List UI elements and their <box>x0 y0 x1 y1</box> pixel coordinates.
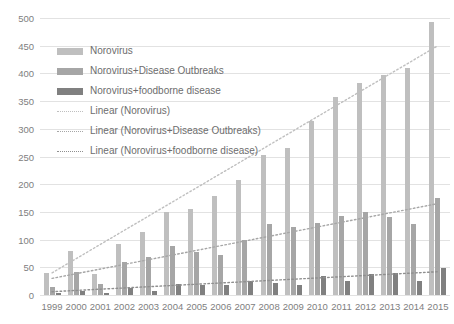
bar <box>248 281 253 295</box>
bar <box>309 121 314 296</box>
legend-label: Norovirus <box>90 45 133 58</box>
y-axis-tick-label: 50 <box>6 262 34 273</box>
x-axis-tick-label: 2010 <box>307 301 328 312</box>
bar <box>315 223 320 295</box>
legend-dotted-line <box>57 148 83 155</box>
bar <box>411 224 416 295</box>
bar <box>297 285 302 295</box>
bar <box>393 273 398 295</box>
x-axis-tick-label: 2013 <box>379 301 400 312</box>
x-axis-tick-label: 2004 <box>162 301 183 312</box>
bar <box>363 212 368 295</box>
bar-group <box>426 18 450 295</box>
bar <box>188 209 193 295</box>
bar <box>176 284 181 295</box>
bar <box>146 257 151 295</box>
bar <box>291 227 296 295</box>
bar <box>357 83 362 295</box>
x-axis-tick-label: 2012 <box>355 301 376 312</box>
legend-item[interactable]: Norovirus+Disease Outbreaks <box>57 65 267 78</box>
y-axis-tick-label: 300 <box>6 123 34 134</box>
bar <box>116 244 121 295</box>
legend-item[interactable]: Norovirus+foodborne disease <box>57 85 267 98</box>
bar <box>261 155 266 295</box>
legend-item[interactable]: Linear (Norovirus+foodborne disease) <box>57 145 267 158</box>
x-axis-tick-label: 2014 <box>403 301 424 312</box>
bar <box>267 224 272 295</box>
y-axis-tick-label: 400 <box>6 68 34 79</box>
x-axis-tick-label: 2005 <box>186 301 207 312</box>
bar <box>242 240 247 295</box>
legend-label: Linear (Norovirus) <box>90 105 170 118</box>
bar <box>164 212 169 295</box>
chart-canvas: 050100150200250300350400450500 199920002… <box>0 0 454 324</box>
bar <box>285 148 290 295</box>
x-axis-tick-label: 1999 <box>41 301 62 312</box>
bar <box>56 293 61 295</box>
x-axis-tick-label: 2008 <box>259 301 280 312</box>
bar <box>44 273 49 295</box>
legend-swatch <box>57 48 83 55</box>
bar <box>405 68 410 295</box>
legend-swatch <box>57 88 83 95</box>
y-axis: 050100150200250300350400450500 <box>0 0 34 324</box>
y-axis-tick-label: 150 <box>6 206 34 217</box>
bar <box>50 287 55 295</box>
x-axis-tick-label: 2000 <box>66 301 87 312</box>
chart-legend: NorovirusNorovirus+Disease OutbreaksNoro… <box>57 45 267 165</box>
bar-group <box>354 18 378 295</box>
x-axis-tick-label: 2015 <box>427 301 448 312</box>
y-axis-tick-label: 350 <box>6 96 34 107</box>
y-axis-tick-label: 500 <box>6 13 34 24</box>
bar <box>170 246 175 295</box>
x-axis-tick-label: 2009 <box>283 301 304 312</box>
bar <box>218 255 223 295</box>
y-axis-tick-label: 450 <box>6 40 34 51</box>
x-axis-tick-label: 2011 <box>331 301 351 312</box>
legend-dotted-line <box>57 108 83 115</box>
bar <box>74 272 79 295</box>
x-axis-tick-label: 2002 <box>114 301 135 312</box>
y-axis-tick-label: 200 <box>6 179 34 190</box>
bar-group <box>281 18 305 295</box>
bar <box>68 251 73 295</box>
legend-label: Linear (Norovirus+foodborne disease) <box>90 145 258 158</box>
bar <box>128 288 133 295</box>
bar-group <box>329 18 353 295</box>
bar <box>387 217 392 295</box>
legend-label: Norovirus+Disease Outbreaks <box>90 65 224 78</box>
bar <box>429 22 434 295</box>
bar <box>152 291 157 295</box>
bar <box>200 285 205 295</box>
bar-group <box>378 18 402 295</box>
y-axis-tick-label: 100 <box>6 234 34 245</box>
x-axis-tick-label: 2007 <box>234 301 255 312</box>
x-axis-tick-label: 2001 <box>90 301 111 312</box>
bar <box>224 285 229 295</box>
legend-item[interactable]: Linear (Norovirus+Disease Outbreaks) <box>57 125 267 138</box>
bar <box>104 293 109 295</box>
bar-group <box>402 18 426 295</box>
bar-group <box>305 18 329 295</box>
bar <box>98 284 103 295</box>
legend-item[interactable]: Linear (Norovirus) <box>57 105 267 118</box>
bar <box>369 274 374 295</box>
bar <box>441 268 446 295</box>
bar <box>417 281 422 295</box>
bar <box>273 283 278 295</box>
y-axis-tick-label: 250 <box>6 151 34 162</box>
bar <box>339 216 344 295</box>
bar <box>333 97 338 295</box>
bar <box>122 262 127 295</box>
bar <box>381 75 386 295</box>
legend-label: Norovirus+foodborne disease <box>90 85 221 98</box>
bar <box>435 198 440 295</box>
bar <box>236 180 241 295</box>
bar <box>212 196 217 295</box>
bar <box>92 274 97 295</box>
bar <box>345 281 350 295</box>
bar <box>321 276 326 295</box>
legend-label: Linear (Norovirus+Disease Outbreaks) <box>90 125 261 138</box>
legend-item[interactable]: Norovirus <box>57 45 267 58</box>
bar <box>140 232 145 295</box>
